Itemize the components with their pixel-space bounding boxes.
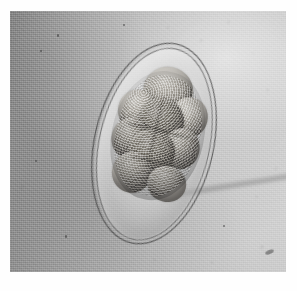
- field-vignette: [10, 11, 286, 272]
- photo-border-bottom: [0, 272, 297, 291]
- photo-border-right: [286, 0, 297, 291]
- photo-border-left: [0, 0, 10, 291]
- photomicrograph: [10, 11, 286, 272]
- photo-border-top: [0, 0, 297, 11]
- micrograph-canvas: [0, 0, 297, 291]
